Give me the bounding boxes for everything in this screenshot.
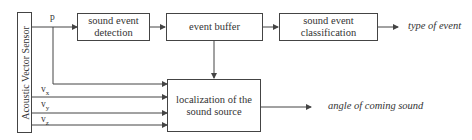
sound-event-classification-block: sound event classification — [279, 13, 378, 41]
event-buffer-block: event buffer — [166, 13, 263, 41]
sound-event-detection-block: sound event detection — [77, 13, 150, 41]
output-angle-of-coming-sound: angle of coming sound — [328, 100, 423, 111]
sound-source-localization-block: localization of the sound source — [167, 79, 261, 132]
signal-vy-label: vy — [41, 99, 49, 112]
signal-vz-label: vz — [41, 114, 49, 127]
signal-vx-label: vx — [41, 84, 49, 97]
output-type-of-event: type of event — [408, 20, 461, 31]
signal-p-label: p — [50, 12, 55, 22]
acoustic-vector-sensor-block: Acoustic Vector Sensor — [17, 12, 32, 133]
sensor-label: Acoustic Vector Sensor — [19, 26, 30, 120]
